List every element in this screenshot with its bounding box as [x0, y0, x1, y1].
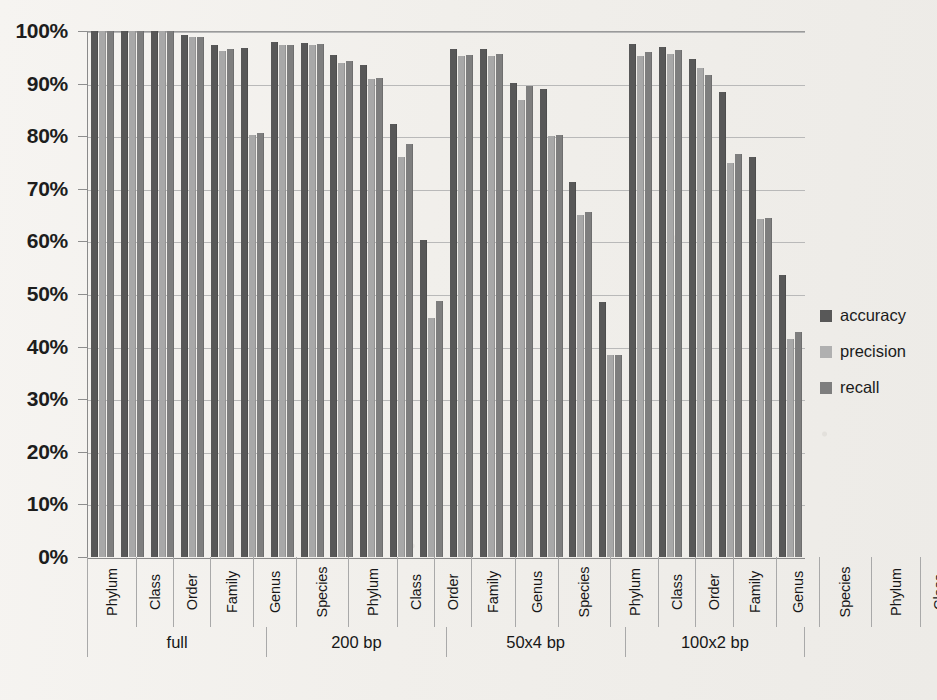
y-axis-tick-label: 10%: [27, 492, 68, 516]
chart-legend: accuracyprecisionrecall: [820, 306, 937, 414]
bar-accuracy: [151, 31, 158, 557]
bar-cluster: [237, 32, 267, 557]
y-axis-tick-label: 70%: [27, 177, 68, 201]
bar-recall: [137, 31, 144, 557]
bar-accuracy: [271, 42, 278, 557]
x-axis-category-label: Genus: [777, 557, 820, 627]
bar-recall: [795, 332, 802, 557]
bar-recall: [287, 45, 294, 557]
bar-precision: [607, 355, 614, 557]
x-axis-category-label: Family: [472, 557, 515, 627]
legend-item-recall[interactable]: recall: [820, 378, 937, 397]
bar-cluster: [148, 32, 178, 557]
bar-recall: [645, 52, 652, 557]
bar-group: [267, 32, 446, 557]
x-axis-category-label: Species: [297, 557, 349, 627]
bar-precision: [458, 56, 465, 557]
legend-label: accuracy: [840, 306, 906, 325]
bar-accuracy: [241, 48, 248, 557]
bar-precision: [727, 163, 734, 558]
category-text: Phylum: [104, 568, 120, 616]
category-text: Species: [837, 567, 853, 618]
bar-accuracy: [510, 83, 517, 557]
bar-precision: [518, 100, 525, 557]
bar-cluster: [327, 32, 357, 557]
x-axis-group-label: 100x2 bp: [626, 627, 805, 657]
y-axis-tick-label: 50%: [27, 282, 68, 306]
bar-accuracy: [719, 92, 726, 557]
legend-swatch-icon: [820, 382, 832, 394]
bar-precision: [488, 56, 495, 557]
category-text: Class: [408, 574, 424, 610]
x-axis-category-label: Class: [921, 557, 937, 627]
legend-item-precision[interactable]: precision: [820, 342, 937, 361]
category-group: PhylumClassOrderFamilyGenusSpecies: [349, 557, 610, 627]
category-text: Genus: [267, 571, 283, 613]
bar-recall: [406, 144, 413, 557]
bar-recall: [436, 301, 443, 557]
bar-recall: [735, 154, 742, 557]
x-axis-category-label: Genus: [516, 557, 559, 627]
y-axis-tick-mark: [78, 399, 87, 400]
bar-cluster: [566, 32, 596, 557]
category-text: Order: [445, 574, 461, 611]
bar-precision: [309, 45, 316, 557]
bar-accuracy: [629, 44, 636, 557]
bar-recall: [466, 55, 473, 557]
bar-accuracy: [181, 35, 188, 557]
bar-accuracy: [360, 65, 367, 557]
bar-cluster: [447, 32, 477, 557]
bar-accuracy: [540, 89, 547, 557]
y-axis-tick-mark: [78, 294, 87, 295]
y-axis-tick-label: 0%: [38, 545, 68, 569]
x-axis-category-label: Genus: [254, 557, 297, 627]
bar-precision: [129, 31, 136, 557]
bar-accuracy: [599, 302, 606, 557]
bar-cluster: [715, 32, 745, 557]
category-text: Class: [931, 574, 937, 610]
bar-recall: [675, 50, 682, 557]
category-group: PhylumClassOrderFamilyGenusSpecies: [87, 557, 349, 627]
bar-cluster: [88, 32, 118, 557]
bar-group: [88, 32, 267, 557]
bar-accuracy: [659, 47, 666, 557]
category-text: Phylum: [365, 568, 381, 616]
bar-accuracy: [779, 275, 786, 557]
bar-recall: [376, 78, 383, 557]
bar-precision: [637, 56, 644, 557]
y-axis-tick-mark: [78, 31, 87, 32]
x-axis-group-label: 50x4 bp: [447, 627, 626, 657]
category-group: PhylumClassOrderFamilyGenusSpecies: [872, 557, 937, 627]
bar-accuracy: [450, 49, 457, 557]
bar-precision: [577, 215, 584, 557]
x-axis-category-label: Phylum: [872, 557, 921, 627]
y-axis-tick-label: 30%: [27, 387, 68, 411]
bar-cluster: [745, 32, 775, 557]
category-text: Genus: [790, 571, 806, 613]
bar-recall: [346, 61, 353, 557]
bar-recall: [317, 44, 324, 557]
x-axis-category-label: Order: [174, 557, 212, 627]
category-text: Class: [147, 574, 163, 610]
bar-cluster: [626, 32, 656, 557]
bar-precision: [249, 135, 256, 557]
bar-cluster: [118, 32, 148, 557]
x-axis-category-label: Family: [211, 557, 254, 627]
x-axis-category-label: Phylum: [87, 557, 137, 627]
category-group: PhylumClassOrderFamilyGenusSpecies: [611, 557, 872, 627]
x-axis-category-label: Order: [435, 557, 473, 627]
bar-cluster: [267, 32, 297, 557]
bar-precision: [428, 318, 435, 557]
bar-precision: [697, 68, 704, 557]
y-axis-tick-mark: [78, 241, 87, 242]
bar-groups: [88, 32, 805, 557]
y-axis-tick-mark: [78, 452, 87, 453]
grouped-bar-chart: 100%90%80%70%60%50%40%30%20%10%0% Phylum…: [0, 0, 937, 700]
legend-item-accuracy[interactable]: accuracy: [820, 306, 937, 325]
bar-precision: [757, 219, 764, 557]
category-text: Family: [747, 571, 763, 613]
bar-recall: [257, 133, 264, 557]
bar-cluster: [686, 32, 716, 557]
bar-recall: [765, 218, 772, 557]
bar-precision: [159, 31, 166, 557]
